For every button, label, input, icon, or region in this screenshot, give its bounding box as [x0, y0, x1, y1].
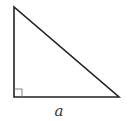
triangle-diagram: a — [0, 0, 127, 124]
right-angle-marker — [14, 89, 22, 97]
right-triangle — [14, 7, 119, 97]
base-label-a: a — [55, 102, 64, 120]
